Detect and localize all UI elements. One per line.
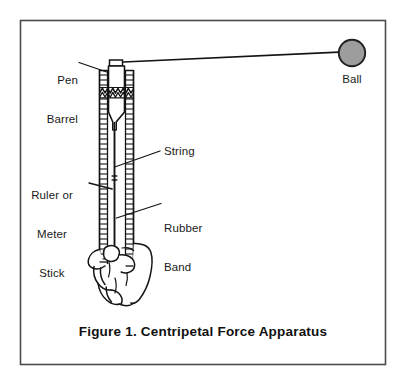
figure-caption: Figure 1. Centripetal Force Apparatus [20, 324, 386, 339]
label-rubber-band-line1: Rubber [164, 222, 230, 235]
label-rubber-band: Rubber Band [164, 196, 230, 300]
label-pen-barrel-line1: Pen [14, 74, 78, 87]
label-ruler-meter-stick: Ruler or Meter Stick [16, 163, 88, 306]
label-string: String [164, 145, 224, 158]
label-rubber-band-line2: Band [164, 261, 230, 274]
label-pen-barrel-line2: Barrel [14, 113, 78, 126]
label-ruler-line1: Ruler or [16, 189, 88, 202]
label-ruler-line2: Meter [16, 228, 88, 241]
figure-container: Pen Barrel Ball String Ruler or Meter St… [0, 0, 406, 387]
ball-graphic [339, 40, 365, 66]
label-pen-barrel: Pen Barrel [14, 48, 78, 152]
label-ball: Ball [330, 73, 374, 86]
label-ruler-line3: Stick [16, 267, 88, 280]
